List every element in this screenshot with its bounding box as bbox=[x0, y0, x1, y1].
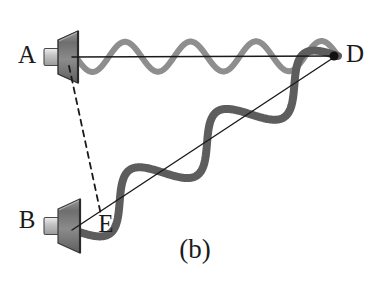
ray-b-to-d bbox=[72, 56, 336, 230]
figure-container: A B D E (b) bbox=[0, 0, 385, 282]
speaker-a-magnet bbox=[44, 49, 59, 66]
ray-a-to-e-dashed bbox=[69, 66, 101, 215]
interference-diagram: A B D E (b) bbox=[0, 0, 385, 282]
speaker-b-cone bbox=[58, 199, 80, 253]
label-e: E bbox=[98, 210, 113, 237]
rays-group bbox=[69, 56, 336, 230]
label-d: D bbox=[346, 40, 364, 67]
label-b: B bbox=[19, 206, 36, 233]
point-d bbox=[330, 52, 339, 61]
speaker-b-magnet bbox=[44, 218, 59, 235]
ray-a-to-d bbox=[72, 56, 336, 57]
figure-caption: (b) bbox=[179, 234, 210, 264]
label-a: A bbox=[18, 41, 36, 68]
points-group bbox=[330, 52, 339, 61]
speaker-b bbox=[44, 199, 80, 253]
wave-b-to-d bbox=[76, 51, 338, 237]
